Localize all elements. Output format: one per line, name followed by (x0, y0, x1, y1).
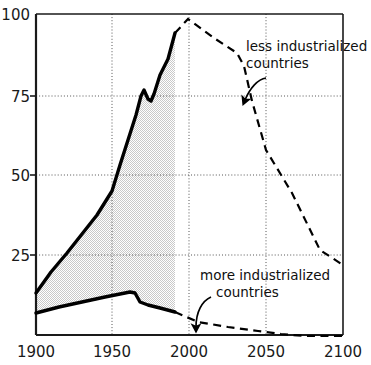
y-tick-label-25: 25 (11, 247, 30, 265)
y-tick-label-100: 100 (1, 6, 30, 24)
x-tick-label-2000: 2000 (170, 343, 208, 361)
population-projection-chart: 100 75 50 25 1900 1950 2000 2050 2100 le… (0, 0, 371, 365)
y-tick-label-75: 75 (11, 88, 30, 106)
x-tick-label-2050: 2050 (247, 343, 285, 361)
x-tick-label-1950: 1950 (93, 343, 131, 361)
chart-container: 100 75 50 25 1900 1950 2000 2050 2100 le… (0, 0, 371, 365)
x-tick-label-2100: 2100 (324, 343, 362, 361)
less-industrialized-label-line1: less industrialized (246, 38, 367, 54)
y-tick-label-50: 50 (11, 167, 30, 185)
less-industrialized-label-line2: countries (246, 55, 309, 71)
more-industrialized-label-line2: countries (216, 284, 279, 300)
x-tick-label-1900: 1900 (17, 343, 55, 361)
more-industrialized-label-line1: more industrialized (200, 267, 330, 283)
